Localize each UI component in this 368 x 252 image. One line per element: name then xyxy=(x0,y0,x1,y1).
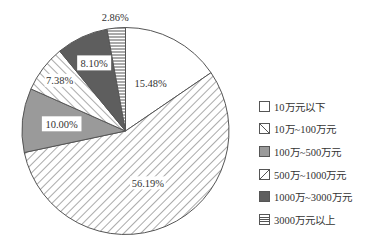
slice-value-label: 56.19% xyxy=(132,178,165,189)
legend-label: 3000万元以上 xyxy=(274,212,335,227)
legend-item-500w-1000w: 500万~1000万元 xyxy=(259,163,352,186)
legend-item-under-10w: 10万元以下 xyxy=(259,95,352,118)
legend: 10万元以下 10万~100万元 100万~500万元 500万~1000万元 … xyxy=(259,95,352,231)
legend-label: 10万~100万元 xyxy=(274,121,336,136)
legend-label: 1000万~3000万元 xyxy=(274,189,352,204)
swatch-dark-gray-icon xyxy=(259,191,270,202)
legend-label: 10万元以下 xyxy=(274,99,325,114)
legend-label: 100万~500万元 xyxy=(274,144,341,159)
legend-item-over-3000w: 3000万元以上 xyxy=(259,208,352,231)
slice-value-label: 8.10% xyxy=(81,58,108,69)
slice-value-label: 15.48% xyxy=(134,78,167,89)
swatch-diag-back-icon xyxy=(259,123,270,134)
slice-value-label: 7.38% xyxy=(46,75,73,86)
slice-value-label: 2.86% xyxy=(102,12,129,23)
swatch-white-icon xyxy=(259,101,270,112)
legend-label: 500万~1000万元 xyxy=(274,167,346,182)
swatch-mid-gray-icon xyxy=(259,146,270,157)
swatch-horizontal-lines-icon xyxy=(259,214,270,225)
swatch-diag-fwd-icon xyxy=(259,169,270,180)
legend-item-100w-500w: 100万~500万元 xyxy=(259,140,352,163)
legend-item-10w-100w: 10万~100万元 xyxy=(259,118,352,141)
slice-value-label: 10.00% xyxy=(45,119,78,130)
legend-item-1000w-3000w: 1000万~3000万元 xyxy=(259,185,352,208)
